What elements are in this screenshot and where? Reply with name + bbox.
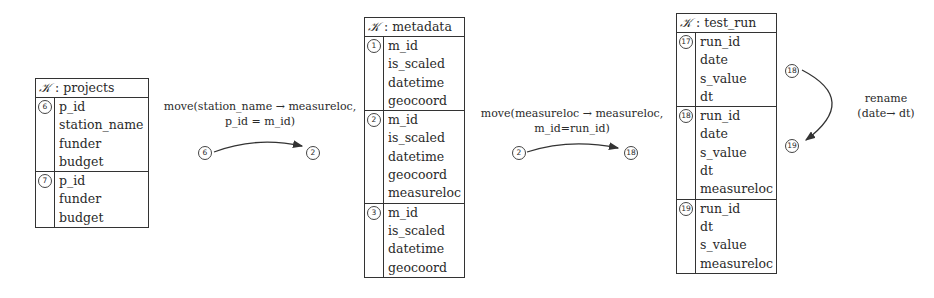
node-2: 2 — [306, 146, 320, 160]
label-line: p_id = m_id) — [160, 114, 360, 129]
label-line: m_id=run_id) — [472, 121, 672, 136]
transformation-label-move-1: move(station_name → measureloc, p_id = m… — [160, 99, 360, 129]
rename-arrow-18-to-19 — [802, 70, 832, 140]
label-line: move(station_name → measureloc, — [160, 99, 360, 114]
node-18: 18 — [624, 146, 638, 160]
node-2-src: 2 — [512, 146, 526, 160]
label-line: rename — [846, 91, 926, 106]
label-line: move(measureloc → measureloc, — [472, 106, 672, 121]
node-6: 6 — [198, 146, 212, 160]
node-18-src: 18 — [785, 64, 799, 78]
label-line: (date→ dt) — [846, 106, 926, 121]
move-arrow-2-to-18 — [527, 144, 618, 152]
transformation-label-move-2: move(measureloc → measureloc, m_id=run_i… — [472, 106, 672, 136]
move-arrow-6-to-2 — [214, 142, 302, 152]
transformation-label-rename: rename (date→ dt) — [846, 91, 926, 121]
node-19: 19 — [785, 139, 799, 153]
